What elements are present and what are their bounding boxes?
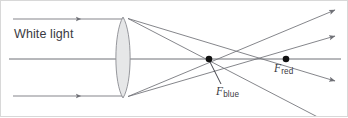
focal-point-red-dot	[283, 56, 290, 63]
upper-red-ray	[128, 19, 335, 82]
f-blue-label: Fblue	[216, 86, 239, 98]
focal-point-blue-dot	[206, 56, 213, 63]
lower-blue-ray	[128, 10, 335, 97]
f-red-symbol: F	[274, 62, 281, 74]
refracted-ray-group-upper	[128, 19, 335, 118]
chromatic-aberration-figure: White light Fblue Fred	[0, 0, 348, 117]
upper-blue-ray	[128, 19, 335, 118]
f-red-subscript: red	[281, 67, 293, 76]
white-light-label: White light	[14, 28, 73, 41]
optics-diagram-canvas	[1, 1, 348, 117]
f-blue-subscript: blue	[223, 90, 239, 99]
biconvex-lens	[116, 17, 130, 98]
f-red-label: Fred	[274, 63, 293, 75]
refracted-ray-group-lower	[128, 10, 335, 97]
f-blue-symbol: F	[216, 85, 223, 97]
